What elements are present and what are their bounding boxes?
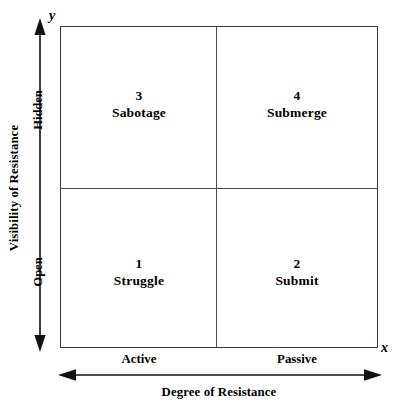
x-tick-passive: Passive bbox=[218, 352, 376, 367]
quadrant-3-number: 3 bbox=[136, 88, 143, 105]
quadrant-2-submit[interactable]: 2 Submit bbox=[218, 256, 376, 290]
quadrant-3-label: Sabotage bbox=[112, 105, 166, 122]
x-tick-active: Active bbox=[60, 352, 218, 367]
y-tick-hidden: Hidden bbox=[31, 50, 46, 170]
quadrant-diagram: y x Hidden Open Visibility of Resistance… bbox=[0, 0, 400, 412]
y-axis-title: Visibility of Resistance bbox=[7, 38, 22, 338]
matrix-horizontal-divider bbox=[60, 188, 378, 189]
y-axis-letter: y bbox=[49, 8, 55, 24]
matrix-vertical-divider bbox=[216, 26, 217, 348]
quadrant-4-submerge[interactable]: 4 Submerge bbox=[218, 88, 376, 122]
quadrant-2-number: 2 bbox=[294, 256, 301, 273]
quadrant-2-label: Submit bbox=[275, 273, 318, 290]
horizontal-double-arrow-icon bbox=[58, 368, 382, 382]
quadrant-1-struggle[interactable]: 1 Struggle bbox=[60, 256, 218, 290]
quadrant-1-number: 1 bbox=[136, 256, 143, 273]
quadrant-4-number: 4 bbox=[294, 88, 301, 105]
quadrant-3-sabotage[interactable]: 3 Sabotage bbox=[60, 88, 218, 122]
quadrant-1-label: Struggle bbox=[114, 273, 164, 290]
quadrant-4-label: Submerge bbox=[267, 105, 327, 122]
matrix-outer-box bbox=[60, 26, 378, 348]
x-axis-title: Degree of Resistance bbox=[60, 385, 378, 400]
x-axis-letter: x bbox=[381, 340, 388, 356]
y-tick-open: Open bbox=[31, 212, 46, 332]
